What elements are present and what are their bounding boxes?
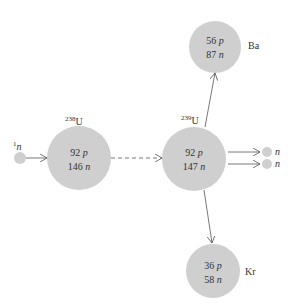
u239-nucleus (162, 127, 226, 191)
u239-neutrons: 147 n (164, 161, 224, 172)
incoming-neutron-label: 1n (13, 139, 22, 152)
kr-neutrons: 58 n (183, 274, 243, 285)
u239-label: 239U (181, 113, 199, 126)
kr-protons: 36 p (183, 260, 243, 271)
arrow-to-ba (205, 73, 215, 127)
u238-label: 238U (65, 114, 83, 127)
ba-nucleus (189, 21, 241, 73)
emitted-neutron-1 (262, 147, 272, 157)
kr-symbol: Kr (245, 266, 256, 277)
u238-neutrons: 146 n (49, 161, 109, 172)
incoming-neutron (14, 152, 26, 164)
u238-nucleus (47, 126, 111, 190)
kr-nucleus (186, 244, 240, 298)
emitted-neutron-2-label: n (275, 158, 280, 169)
u239-protons: 92 p (164, 147, 224, 158)
u238-protons: 92 p (49, 147, 109, 158)
arrow-to-kr (204, 190, 212, 243)
ba-protons: 56 p (185, 35, 245, 46)
ba-symbol: Ba (248, 40, 259, 51)
ba-neutrons: 87 n (185, 49, 245, 60)
emitted-neutron-2 (262, 159, 272, 169)
emitted-neutron-1-label: n (275, 146, 280, 157)
